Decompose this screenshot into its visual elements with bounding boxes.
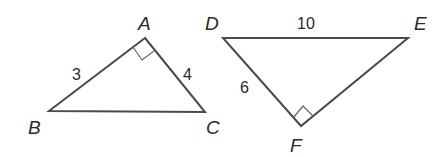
triangle-def-shape xyxy=(223,38,408,126)
vertex-label-c: C xyxy=(206,117,220,138)
vertex-label-b: B xyxy=(28,117,41,138)
vertex-label-f: F xyxy=(290,135,303,156)
vertex-label-e: E xyxy=(414,13,427,34)
triangle-def: D E F 10 6 xyxy=(205,13,427,156)
right-angle-marker-a xyxy=(133,47,154,60)
vertex-label-d: D xyxy=(205,13,219,34)
side-label-ab: 3 xyxy=(72,66,81,83)
right-angle-marker-f xyxy=(293,106,313,118)
triangles-diagram: A B C 3 4 D E F 10 6 xyxy=(0,0,436,157)
side-label-df: 6 xyxy=(240,79,249,96)
side-label-de: 10 xyxy=(297,15,315,32)
vertex-label-a: A xyxy=(137,13,151,34)
triangle-abc: A B C 3 4 xyxy=(28,13,220,138)
side-label-ac: 4 xyxy=(183,66,192,83)
